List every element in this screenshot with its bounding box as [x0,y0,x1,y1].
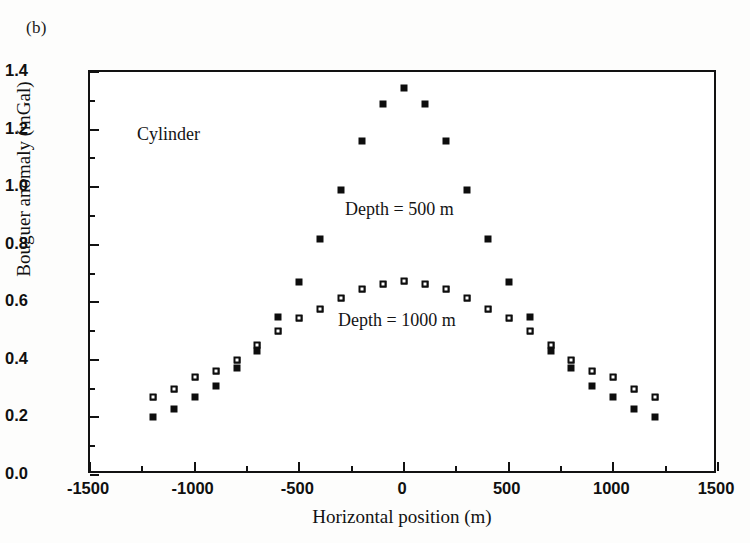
y-axis-major-tick [90,474,99,476]
data-point [589,382,596,389]
x-axis-major-tick [717,462,719,471]
data-point [421,280,428,287]
plot-frame: Cylinder Depth = 500 m Depth = 1000 m [88,70,716,473]
data-point [191,374,198,381]
data-point [631,405,638,412]
x-axis-tick-label: -1500 [67,479,109,498]
data-point [505,279,512,286]
data-point [170,405,177,412]
y-axis-title: Bouguer anomaly (mGal) [13,0,35,369]
data-point [652,394,659,401]
data-point [233,356,240,363]
annotation-depth-500: Depth = 500 m [345,199,454,220]
data-point [610,394,617,401]
data-point [149,414,156,421]
data-point [610,374,617,381]
x-axis-tick-label: 500 [493,479,521,498]
data-point [568,365,575,372]
x-axis-title: Horizontal position (m) [88,506,716,528]
data-point [589,368,596,375]
data-point [296,315,303,322]
data-point [631,385,638,392]
x-axis-tick-label: -1000 [172,479,214,498]
data-point [338,187,345,194]
data-point [359,138,366,145]
data-point [484,306,491,313]
data-point [652,414,659,421]
data-point [526,313,533,320]
data-point [233,365,240,372]
x-axis-tick-label: -500 [281,479,314,498]
data-point [442,286,449,293]
figure-panel-b: (b) Cylinder Depth = 500 m Depth = 1000 … [0,0,750,543]
data-point [254,342,261,349]
x-axis-tick-label: 0 [397,479,406,498]
data-point [463,187,470,194]
data-point [401,277,408,284]
data-point [317,235,324,242]
data-point [149,394,156,401]
annotation-cylinder: Cylinder [137,124,200,145]
data-point [359,286,366,293]
data-point [380,100,387,107]
data-point [296,279,303,286]
data-point [421,100,428,107]
data-point [442,138,449,145]
data-point [191,394,198,401]
data-point [505,315,512,322]
y-axis-tick-label: 0.0 [5,464,28,483]
x-axis-tick-label: 1500 [698,479,735,498]
data-point [380,280,387,287]
data-point [526,328,533,335]
data-point [170,385,177,392]
x-axis-tick-label: 1000 [593,479,630,498]
data-point [484,235,491,242]
data-point [338,294,345,301]
data-point [568,356,575,363]
data-point [212,382,219,389]
data-point [212,368,219,375]
data-point [463,294,470,301]
data-point [317,306,324,313]
annotation-depth-1000: Depth = 1000 m [338,310,456,331]
data-point [401,84,408,91]
data-point [275,328,282,335]
data-point [275,313,282,320]
data-point [547,342,554,349]
y-axis-tick-label: 0.2 [5,406,28,425]
